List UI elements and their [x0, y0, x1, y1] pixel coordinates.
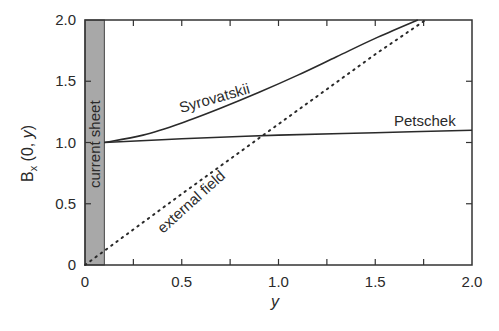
- y-tick-label: 0.5: [55, 195, 76, 212]
- x-axis-ticks: 00.51.01.52.0: [81, 20, 483, 290]
- y-tick-label: 1.5: [55, 72, 76, 89]
- external-field-curve: [85, 20, 426, 265]
- syrovatskii-curve: [104, 20, 417, 143]
- petschek-curve: [104, 130, 472, 142]
- petschek-label: Petschek: [394, 112, 456, 129]
- y-tick-label: 2.0: [55, 11, 76, 28]
- x-tick-label: 1.5: [365, 273, 386, 290]
- x-tick-label: 0: [81, 273, 89, 290]
- plot-frame: [85, 20, 472, 265]
- x-tick-label: 1.0: [268, 273, 289, 290]
- x-tick-label: 2.0: [462, 273, 483, 290]
- x-tick-label: 0.5: [171, 273, 192, 290]
- series-group: [85, 20, 472, 265]
- external-field-label: external field: [154, 167, 229, 237]
- y-tick-label: 1.0: [55, 134, 76, 151]
- current-sheet-label: current sheet: [86, 100, 103, 188]
- y-axis-title: Bx (0, y): [19, 125, 39, 182]
- chart: 00.51.01.52.0 00.51.01.52.0 current shee…: [0, 0, 499, 331]
- y-tick-label: 0: [68, 256, 76, 273]
- x-axis-title: y: [270, 293, 280, 310]
